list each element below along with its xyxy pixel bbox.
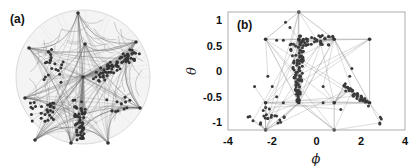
y-tick: -1 (212, 116, 222, 128)
y-tick: -0.5 (203, 91, 222, 103)
x-axis-label: ϕ (312, 151, 321, 166)
y-axis-label: θ (184, 67, 199, 75)
x-tick: 4 (402, 135, 409, 147)
figure-canvas: -4 -2 0 2 4 1 0.5 0 -0.5 -1 ϕ θ (0, 0, 417, 168)
x-tick: -2 (267, 135, 277, 147)
x-tick: -4 (223, 135, 234, 147)
y-tick: 0 (216, 65, 222, 77)
panel-a-network (16, 10, 150, 145)
x-tick: 2 (358, 135, 364, 147)
panel-b-scatter (247, 10, 383, 132)
y-tick: 1 (216, 14, 222, 26)
x-tick: 0 (313, 135, 319, 147)
y-tick: 0.5 (207, 40, 222, 52)
